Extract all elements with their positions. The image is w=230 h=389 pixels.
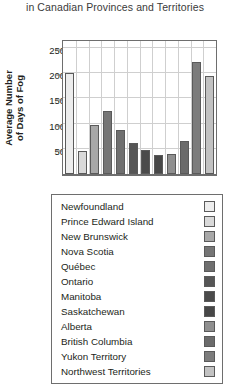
bar-slot	[89, 41, 102, 174]
bar-slot	[114, 41, 127, 174]
legend-item-label: Québec	[61, 259, 204, 274]
legend-item-label: Manitoba	[61, 289, 204, 304]
bar-slot	[140, 41, 153, 174]
legend-item-label: British Columbia	[61, 334, 204, 349]
bar-slot	[165, 41, 178, 174]
legend-item-label: Saskatchewan	[61, 304, 204, 319]
bar-slot	[152, 41, 165, 174]
bar	[192, 62, 201, 174]
bar-slot	[63, 41, 76, 174]
legend-swatch	[204, 201, 215, 212]
bar	[78, 151, 87, 174]
bar-slot	[76, 41, 89, 174]
bar	[103, 111, 112, 174]
legend-item: Alberta	[61, 319, 215, 334]
legend-item: Nova Scotia	[61, 244, 215, 259]
bar	[205, 76, 214, 174]
legend: NewfoundlandPrince Edward IslandNew Brun…	[51, 194, 223, 384]
legend-item: Ontario	[61, 274, 215, 289]
bar	[154, 155, 163, 174]
legend-swatch	[204, 306, 215, 317]
bar	[167, 154, 176, 174]
legend-item-label: Ontario	[61, 274, 204, 289]
chart-figure: in Canadian Provinces and Territories Av…	[0, 0, 230, 389]
bar-slot	[127, 41, 140, 174]
legend-item: Manitoba	[61, 289, 215, 304]
bar-series	[63, 41, 216, 174]
y-axis-label-line-2: of Days of Fog	[14, 75, 25, 141]
legend-swatch	[204, 276, 215, 287]
legend-item: Prince Edward Island	[61, 214, 215, 229]
legend-item: Québec	[61, 259, 215, 274]
y-axis-label-line-1: Average Number	[3, 70, 14, 146]
legend-swatch	[204, 291, 215, 302]
legend-swatch	[204, 351, 215, 362]
legend-item-label: Alberta	[61, 319, 204, 334]
legend-swatch	[204, 336, 215, 347]
legend-swatch	[204, 246, 215, 257]
plot-area	[62, 40, 217, 176]
legend-swatch	[204, 366, 215, 377]
legend-item-label: Northwest Territories	[61, 364, 204, 379]
bar-slot	[101, 41, 114, 174]
legend-item-label: Prince Edward Island	[61, 214, 204, 229]
legend-item-label: New Brunswick	[61, 229, 204, 244]
legend-swatch	[204, 231, 215, 242]
legend-item-label: Nova Scotia	[61, 244, 204, 259]
bar	[141, 150, 150, 174]
bar	[129, 143, 138, 174]
legend-swatch	[204, 321, 215, 332]
legend-item: British Columbia	[61, 334, 215, 349]
bar	[90, 125, 99, 174]
legend-item: Newfoundland	[61, 199, 215, 214]
bar-slot	[191, 41, 204, 174]
chart-title: in Canadian Provinces and Territories	[0, 1, 230, 13]
legend-item-label: Yukon Territory	[61, 349, 204, 364]
legend-swatch	[204, 261, 215, 272]
bar-slot	[203, 41, 216, 174]
bar	[180, 141, 189, 174]
bar-slot	[178, 41, 191, 174]
legend-item: New Brunswick	[61, 229, 215, 244]
legend-item: Yukon Territory	[61, 349, 215, 364]
legend-item: Saskatchewan	[61, 304, 215, 319]
legend-item-label: Newfoundland	[61, 199, 204, 214]
legend-swatch	[204, 216, 215, 227]
bar	[65, 73, 74, 174]
legend-item: Northwest Territories	[61, 364, 215, 379]
bar	[116, 130, 125, 174]
